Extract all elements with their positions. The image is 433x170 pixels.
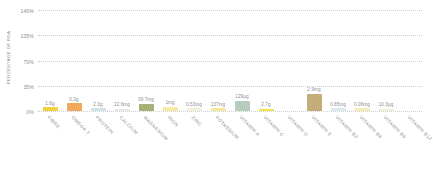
x-axis-label-slot: ZINC <box>182 113 206 168</box>
x-axis-label-slot: VITAMIN C <box>254 113 278 168</box>
y-axis-title-label: PERCENTAGE OF RDA <box>7 31 12 85</box>
bar-group[interactable]: 1mg <box>158 10 182 111</box>
x-axis-label-slot: FIBRE <box>38 113 62 168</box>
bar[interactable] <box>67 103 82 111</box>
gridline: 0% <box>38 111 422 112</box>
x-axis-tick-label: FIBRE <box>46 115 61 130</box>
x-axis-label-slot: VITAMIN A <box>230 113 254 168</box>
x-axis-tick-label: IRON <box>166 115 179 128</box>
bar-group[interactable] <box>398 10 422 111</box>
x-axis-label-slot: VITAMIN B9 <box>374 113 398 168</box>
bar-group[interactable] <box>278 10 302 111</box>
bar[interactable] <box>355 108 370 111</box>
plot-area: 140%105%70%35%0% 1.6g0.3g2.3g22.6mg39.7m… <box>38 10 422 111</box>
x-axis-label-slot: VITAMIN E <box>302 113 326 168</box>
bar-group[interactable]: 39.7mg <box>134 10 158 111</box>
bar-value-label: 39.7mg <box>138 97 154 102</box>
bar-group[interactable]: 2.7g <box>254 10 278 111</box>
y-axis-tick-label: 70% <box>23 59 34 65</box>
bar-value-label: 10.3µg <box>379 102 394 107</box>
bar-value-label: 2.7g <box>261 102 270 107</box>
bar-value-label: 129µg <box>235 94 248 99</box>
bar-group[interactable]: 137mg <box>206 10 230 111</box>
bar[interactable] <box>259 109 274 111</box>
bar[interactable] <box>379 109 394 111</box>
bar-group[interactable]: 10.3µg <box>374 10 398 111</box>
bar-value-label: 137mg <box>211 102 226 107</box>
bar-value-label: 1mg <box>165 100 174 105</box>
bar-group[interactable]: 0.3g <box>62 10 86 111</box>
bar[interactable] <box>163 107 178 111</box>
x-axis-label-slot: VITAMIN B6 <box>350 113 374 168</box>
bar[interactable] <box>139 104 154 111</box>
bar-group[interactable]: 0.85mg <box>326 10 350 111</box>
bar-value-label: 0.3g <box>69 97 78 102</box>
y-axis-tick-label: 0% <box>26 109 34 115</box>
bar-group[interactable]: 1.6g <box>38 10 62 111</box>
x-axis-label-slot: IRON <box>158 113 182 168</box>
x-axis-labels: FIBREOMEGA 3PROTEINCALCIUMMAGNESIUMIRONZ… <box>38 113 422 168</box>
y-axis-tick-label: 140% <box>20 8 34 14</box>
bar-group[interactable]: 0.06mg <box>350 10 374 111</box>
bar[interactable] <box>211 108 226 111</box>
bars-layer: 1.6g0.3g2.3g22.6mg39.7mg1mg0.53mg137mg12… <box>38 10 422 111</box>
x-axis-label-slot: VITAMIN D <box>278 113 302 168</box>
bar-value-label: 0.85mg <box>330 102 346 107</box>
bar-value-label: 0.53mg <box>186 102 202 107</box>
bar-value-label: 1.6g <box>45 101 54 106</box>
bar[interactable] <box>307 94 322 111</box>
x-axis-label-slot: VITAMIN B3 <box>326 113 350 168</box>
bar-group[interactable]: 2.9mg <box>302 10 326 111</box>
y-axis-tick-label: 105% <box>20 33 34 39</box>
y-axis-title: PERCENTAGE OF RDA <box>2 0 16 115</box>
bar[interactable] <box>331 108 346 111</box>
bar[interactable] <box>91 108 106 111</box>
bar-group[interactable]: 2.3g <box>86 10 110 111</box>
x-axis-label-slot: OMEGA 3 <box>62 113 86 168</box>
x-axis-label-slot: POTASSIUM <box>206 113 230 168</box>
bar-value-label: 0.06mg <box>354 102 370 107</box>
bar-value-label: 2.3g <box>93 102 102 107</box>
bar-group[interactable]: 129µg <box>230 10 254 111</box>
bar[interactable] <box>43 107 58 111</box>
x-axis-label-slot: CALCIUM <box>110 113 134 168</box>
x-axis-label-slot: VITAMIN B12 <box>398 113 422 168</box>
y-axis-tick-label: 35% <box>23 84 34 90</box>
bar[interactable] <box>115 109 130 111</box>
x-axis-tick-label: VITAMIN B12 <box>406 115 433 142</box>
bar[interactable] <box>187 108 202 111</box>
x-axis-tick-label: ZINC <box>190 115 202 127</box>
x-axis-label-slot: PROTEIN <box>86 113 110 168</box>
bar-group[interactable]: 22.6mg <box>110 10 134 111</box>
bar[interactable] <box>235 101 250 111</box>
x-axis-label-slot: MAGNESIUM <box>134 113 158 168</box>
bar-group[interactable]: 0.53mg <box>182 10 206 111</box>
bar-value-label: 2.9mg <box>307 87 320 92</box>
bar-value-label: 22.6mg <box>114 102 130 107</box>
